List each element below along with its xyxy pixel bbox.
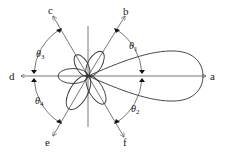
label-d: d <box>9 70 15 82</box>
label-e: e <box>45 136 50 148</box>
lobe-b <box>82 48 108 79</box>
marker-theta3-d <box>31 70 37 74</box>
label-c: c <box>48 4 53 16</box>
ray-c <box>53 16 88 76</box>
label-a: a <box>210 70 215 82</box>
ray-e <box>53 76 88 136</box>
label-theta4: θ4 <box>35 95 44 108</box>
arc-theta1 <box>117 30 142 73</box>
label-theta2: θ2 <box>131 103 140 116</box>
marker-theta4-d <box>31 78 37 82</box>
marker-theta2-a <box>139 78 145 82</box>
label-b: b <box>123 5 129 17</box>
radiation-pattern-diagram: a b c d e f θ1 θ2 θ3 θ4 <box>0 0 227 153</box>
label-f: f <box>123 136 127 148</box>
marker-theta1-a <box>139 70 145 74</box>
label-theta3: θ3 <box>36 48 45 61</box>
ray-b <box>88 16 125 76</box>
label-theta1: θ1 <box>129 40 138 53</box>
ray-f <box>88 76 124 137</box>
